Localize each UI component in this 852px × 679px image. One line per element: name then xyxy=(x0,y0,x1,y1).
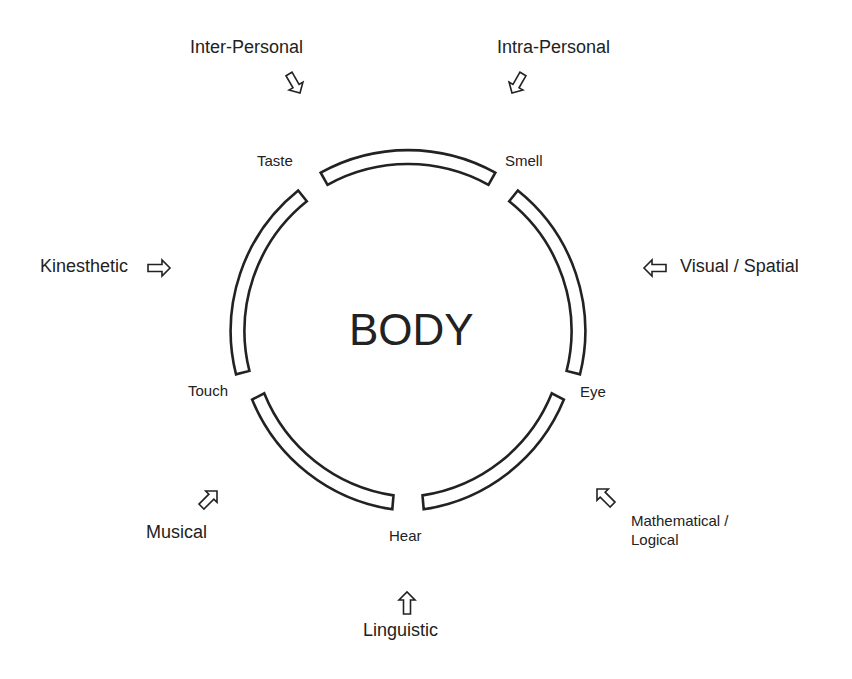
sense-label-taste: Taste xyxy=(257,152,293,169)
ring-segment-left xyxy=(231,191,307,375)
intelligence-label-linguistic: Linguistic xyxy=(363,620,438,641)
arrow-visual-spatial-icon xyxy=(644,260,666,276)
center-label-body: BODY xyxy=(349,305,474,356)
arrow-inter-personal-icon xyxy=(282,70,307,97)
sense-label-hear: Hear xyxy=(389,527,422,544)
ring-segment-top xyxy=(321,150,496,185)
intelligence-label-mathematical: Mathematical / xyxy=(631,512,729,529)
intelligence-label-musical: Musical xyxy=(146,522,207,543)
sense-label-smell: Smell xyxy=(505,152,543,169)
intelligence-label-visual-spatial: Visual / Spatial xyxy=(680,256,799,277)
intelligence-label-kinesthetic: Kinesthetic xyxy=(40,256,128,277)
arrow-linguistic-icon xyxy=(399,592,415,614)
arrow-intra-personal-icon xyxy=(505,70,530,97)
sense-label-eye: Eye xyxy=(580,383,606,400)
arrow-mathematical-logical-icon xyxy=(591,483,618,510)
intelligence-label-logical: Logical xyxy=(631,531,679,548)
arrow-musical-icon xyxy=(196,485,223,512)
arrow-kinesthetic-icon xyxy=(148,260,170,276)
ring-segment-bottom-left xyxy=(252,393,393,509)
ring-segment-right xyxy=(509,191,585,375)
sense-label-touch: Touch xyxy=(188,382,228,399)
ring-segment-bottom-right xyxy=(423,393,564,509)
intelligence-label-intra-personal: Intra-Personal xyxy=(497,37,610,58)
intelligence-label-inter-personal: Inter-Personal xyxy=(190,37,303,58)
